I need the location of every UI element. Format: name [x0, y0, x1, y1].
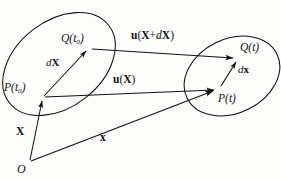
label-P-t0: P(t0) [4, 82, 25, 95]
label-Q-t-close: ) [255, 41, 259, 53]
left-blob-reference-configuration [0, 0, 135, 137]
label-origin-text: O [17, 162, 26, 176]
label-P-t0-close: ) [22, 81, 26, 93]
arrow-X-position-vector [30, 101, 42, 160]
deformation-diagram: Q(t0) P(t0) Q(t) P(t) u(X+dX) u(X) dX dx… [0, 0, 281, 179]
label-P-t-letter: P [218, 92, 225, 104]
label-X-vector: X [16, 126, 24, 138]
arrow-u-X [45, 90, 214, 97]
label-X2-bold: X [162, 29, 170, 41]
label-X-bold: X [16, 125, 24, 137]
label-P-t: P(t) [218, 93, 236, 105]
label-P-t-close: ) [232, 92, 236, 104]
label-Q-t0: Q(t0) [61, 33, 84, 46]
arrow-x-position-vector [31, 91, 213, 161]
label-Q-t0-close: ) [80, 32, 84, 44]
label-dX: dX [46, 57, 59, 68]
label-dx: dx [238, 64, 249, 75]
label-x-bold: x [100, 131, 106, 143]
label-x-bold: x [244, 63, 250, 75]
label-origin: O [17, 163, 26, 175]
label-u-X: u(X) [113, 74, 135, 86]
label-X-bold: X [141, 29, 149, 41]
label-u-X-plus-dX: u(X+dX) [131, 30, 174, 42]
right-blob-current-configuration [171, 21, 281, 131]
label-X-bold: X [52, 56, 60, 68]
arrow-dx [221, 62, 236, 86]
label-Q-t: Q(t) [240, 42, 259, 54]
label-paren-close: ) [170, 29, 174, 41]
label-x-vector: x [100, 132, 106, 144]
arrow-u-X-plus-dX [92, 49, 233, 58]
label-X-bold: X [123, 73, 131, 85]
diagram-canvas [0, 0, 281, 179]
label-paren-close: ) [132, 73, 136, 85]
label-P-t0-letter: P [4, 81, 11, 93]
